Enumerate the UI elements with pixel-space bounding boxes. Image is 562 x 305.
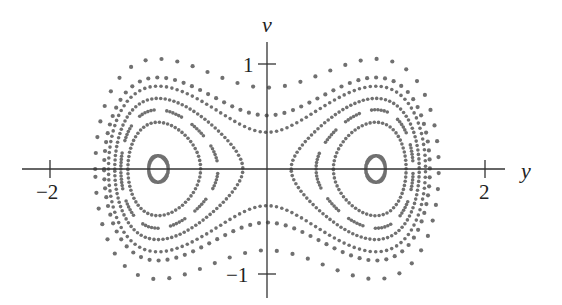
x-tick-label-pos2: 2 — [479, 180, 490, 204]
y-tick-label-pos1: 1 — [243, 53, 254, 77]
y-axis-label: v — [262, 12, 272, 37]
y-tick-label-neg1: −1 — [226, 263, 248, 287]
axes: −2 2 1 −1 y v — [22, 12, 531, 298]
x-tick-label-neg2: −2 — [36, 180, 58, 204]
x-axis-label: y — [519, 158, 531, 183]
phase-portrait-chart: −2 2 1 −1 y v — [0, 0, 562, 305]
